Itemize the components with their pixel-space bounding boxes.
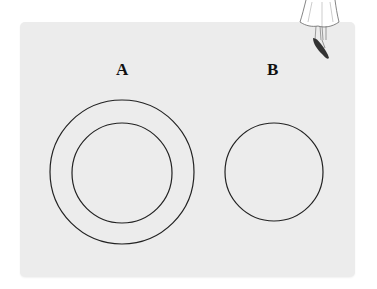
diagram-shapes [0,0,377,289]
b-circle [225,123,323,221]
a-inner-circle [72,123,172,223]
girl-figure-illustration [300,0,339,59]
